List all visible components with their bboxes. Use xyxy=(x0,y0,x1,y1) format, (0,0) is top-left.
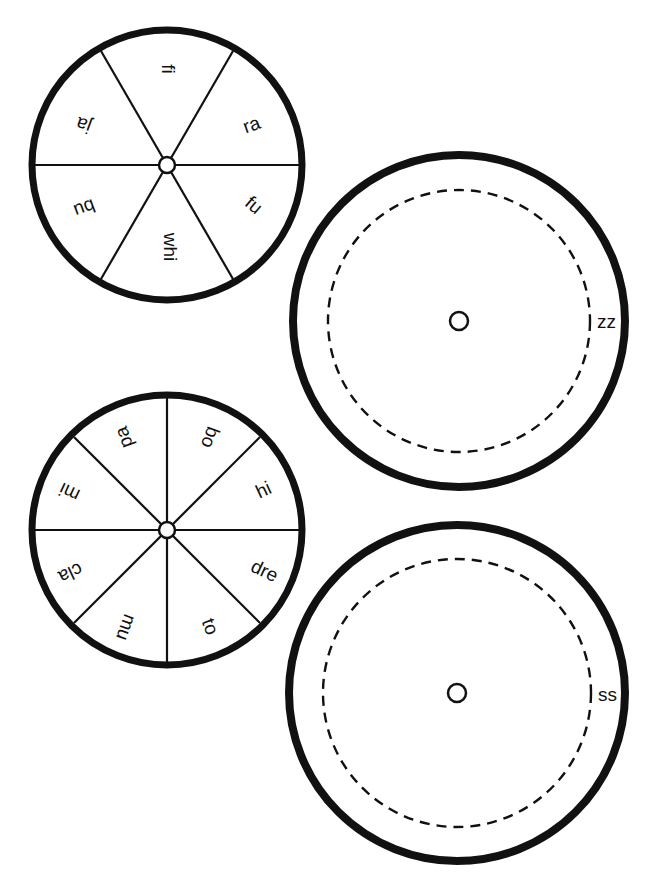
disc-ending-label: zz xyxy=(597,311,616,332)
worksheet-canvas: fi ra fu whi bu ja bo hi dre to mu cla m… xyxy=(0,0,656,886)
syllable-wheel-eight: bo hi dre to mu cla mi pa xyxy=(32,395,302,665)
disc-zz-hub-icon xyxy=(450,312,468,330)
disc-ending-label: ss xyxy=(598,684,617,705)
segment-label: whi xyxy=(160,232,181,262)
wheel-eight-hub-icon xyxy=(159,522,175,538)
disc-ss-hub-icon xyxy=(448,684,466,702)
syllable-wheel-six: fi ra fu whi bu ja xyxy=(32,30,302,300)
wheel-six-hub-icon xyxy=(159,157,175,173)
ending-disc-ss: ss xyxy=(289,525,625,861)
ending-disc-zz: zz xyxy=(293,155,625,487)
segment-label: fi xyxy=(158,64,179,74)
